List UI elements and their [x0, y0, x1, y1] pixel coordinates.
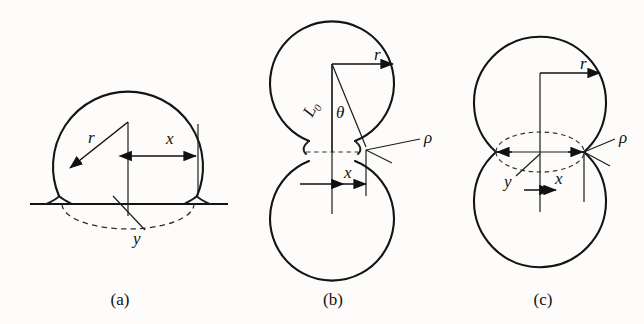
label-r-b: r — [374, 45, 381, 64]
meniscus-inner-right-a — [184, 196, 197, 204]
rho-leader-b — [366, 139, 420, 150]
caption-a: (a) — [111, 290, 130, 309]
meniscus-foot-right-a — [197, 196, 210, 204]
label-x-a: x — [165, 129, 174, 148]
figure-container: r x y (a) — [0, 0, 644, 324]
rho-leader2-c — [584, 152, 610, 166]
caption-b: (b) — [323, 290, 343, 309]
label-L0-group-b: L 0 — [298, 98, 324, 122]
caption-c: (c) — [534, 290, 553, 309]
meniscus-foot-left-a — [46, 196, 59, 204]
panel-b: L 0 r θ ρ x (b) — [270, 21, 432, 309]
label-y-a: y — [131, 229, 141, 248]
panel-c: r ρ y x (c) — [474, 37, 627, 309]
label-rho-c: ρ — [618, 128, 627, 147]
label-rho-b: ρ — [423, 128, 432, 147]
label-theta-b: θ — [336, 103, 344, 122]
rho-leader-c — [584, 139, 615, 152]
label-x-b: x — [343, 163, 352, 182]
label-r-a: r — [88, 128, 95, 147]
panel-a: r x y (a) — [30, 92, 228, 309]
label-y-c: y — [502, 172, 512, 191]
radius-arrow-a — [70, 122, 128, 168]
label-x-c: x — [554, 169, 563, 188]
meniscus-inner-left-a — [59, 196, 72, 204]
y-leader-c — [516, 154, 540, 176]
y-leader-a — [113, 196, 145, 230]
rho-leader2-b — [366, 150, 392, 163]
label-r-c: r — [580, 54, 587, 73]
figure-svg: r x y (a) — [0, 0, 644, 324]
